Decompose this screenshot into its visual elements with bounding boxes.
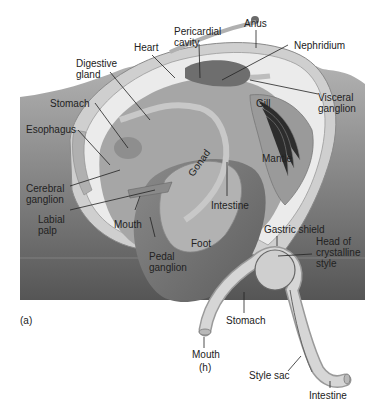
panel-b-label: (h) [199,362,211,373]
label-mantle: Mantle [262,153,292,164]
label-esophagus: Esophagus [26,124,76,135]
label-foot: Foot [191,238,211,249]
label-intestine-b: Intestine [309,390,347,401]
label-stomach-b: Stomach [226,315,265,326]
bivalve-anatomy-diagram [0,0,377,413]
label-nephridium: Nephridium [294,40,345,51]
label-gill: Gill [256,98,270,109]
label-digestive-gland: Digestive gland [76,58,117,80]
label-gastric-shield: Gastric shield [264,224,325,235]
label-mouth-b: Mouth [192,349,220,360]
label-pedal-ganglion: Pedal ganglion [149,251,187,273]
label-labial-palp: Labial palp [38,214,65,236]
label-mouth: Mouth [114,219,142,230]
label-heart: Heart [134,42,158,53]
label-visceral-ganglion: Visceral ganglion [318,92,356,114]
label-stomach: Stomach [50,98,89,109]
label-cerebral-ganglion: Cerebral ganglion [26,183,64,205]
label-intestine: Intestine [211,200,249,211]
label-style-sac: Style sac [249,370,290,381]
label-anus: Anus [244,18,267,29]
stomach [114,137,142,159]
label-pericardial-cavity: Pericardial cavity [174,26,221,48]
panel-a-label: (a) [20,315,32,326]
label-head-of-crystalline-style: Head of crystalline style [316,236,360,269]
